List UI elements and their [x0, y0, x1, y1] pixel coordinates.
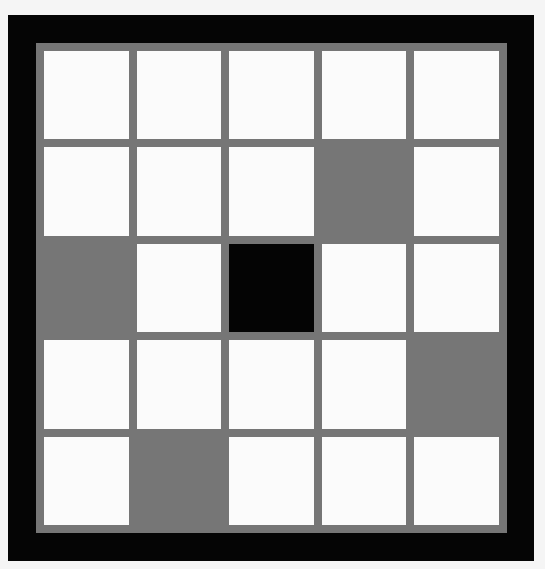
board-cell-r1-c2[interactable] [229, 147, 314, 235]
board-cell-r1-c4[interactable] [414, 147, 499, 235]
board-cell-r0-c4[interactable] [414, 51, 499, 139]
board-cell-r2-c1[interactable] [137, 244, 222, 332]
board-cell-r0-c3[interactable] [322, 51, 407, 139]
board-cell-r3-c2[interactable] [229, 340, 314, 428]
board-cell-r3-c0[interactable] [44, 340, 129, 428]
board-cell-r3-c3[interactable] [322, 340, 407, 428]
board-cell-r0-c0[interactable] [44, 51, 129, 139]
board-cell-r1-c1[interactable] [137, 147, 222, 235]
board-cell-r1-c0[interactable] [44, 147, 129, 235]
board-cell-r4-c2[interactable] [229, 437, 314, 525]
board-cell-r3-c4[interactable] [414, 340, 499, 428]
game-board-grid [36, 43, 507, 533]
board-cell-r0-c1[interactable] [137, 51, 222, 139]
board-cell-r4-c1[interactable] [137, 437, 222, 525]
board-cell-r4-c0[interactable] [44, 437, 129, 525]
board-cell-r4-c4[interactable] [414, 437, 499, 525]
board-cell-r4-c3[interactable] [322, 437, 407, 525]
board-cell-r3-c1[interactable] [137, 340, 222, 428]
board-cell-r0-c2[interactable] [229, 51, 314, 139]
board-cell-r1-c3[interactable] [322, 147, 407, 235]
board-cell-r2-c4[interactable] [414, 244, 499, 332]
game-board-border [8, 15, 534, 561]
board-cell-r2-c0[interactable] [44, 244, 129, 332]
board-cell-r2-c3[interactable] [322, 244, 407, 332]
board-cell-r2-c2[interactable] [229, 244, 314, 332]
